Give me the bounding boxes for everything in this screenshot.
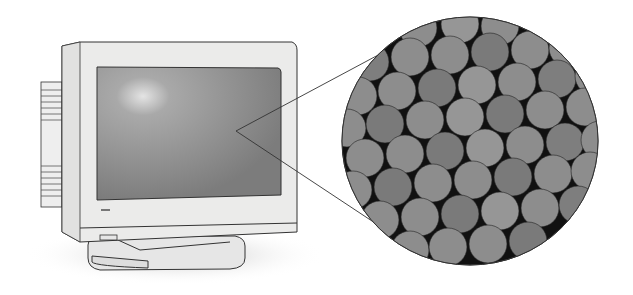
monitor-stand [88, 236, 245, 270]
magnified-phosphor-view [328, 5, 619, 269]
logo-badge [101, 209, 110, 211]
crt-illustration [0, 0, 633, 295]
power-button [100, 235, 117, 240]
crt-screen [97, 67, 281, 200]
side-vents [41, 82, 62, 207]
